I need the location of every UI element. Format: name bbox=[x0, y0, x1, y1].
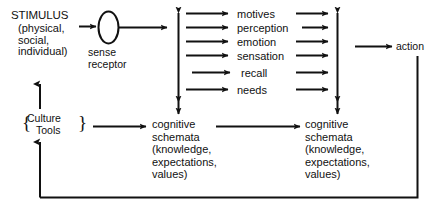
process-label-perception: perception bbox=[237, 22, 288, 34]
culture-label: Culture bbox=[27, 113, 61, 125]
sense-receptor-label: sense receptor bbox=[88, 47, 127, 70]
tools-label: Tools bbox=[36, 125, 61, 137]
stimulus-heading: STIMULUS bbox=[11, 10, 68, 22]
process-label-emotion: emotion bbox=[237, 36, 276, 48]
cognitive-schemata-block-2: cognitive schemata (knowledge, expectati… bbox=[305, 118, 370, 181]
culture-brace-right: } bbox=[78, 113, 87, 132]
process-label-needs: needs bbox=[237, 84, 267, 96]
process-label-recall: recall bbox=[241, 67, 267, 79]
stimulus-qualifiers: (physical, social, individual) bbox=[18, 23, 68, 58]
cognitive-schemata-block-1: cognitive schemata (knowledge, expectati… bbox=[152, 118, 217, 181]
process-label-motives: motives bbox=[237, 8, 275, 20]
sense-receptor-ellipse bbox=[99, 12, 119, 44]
diagram-canvas: STIMULUS (physical, social, individual) … bbox=[0, 0, 440, 213]
process-label-sensation: sensation bbox=[237, 50, 284, 62]
action-label: action bbox=[396, 41, 424, 53]
